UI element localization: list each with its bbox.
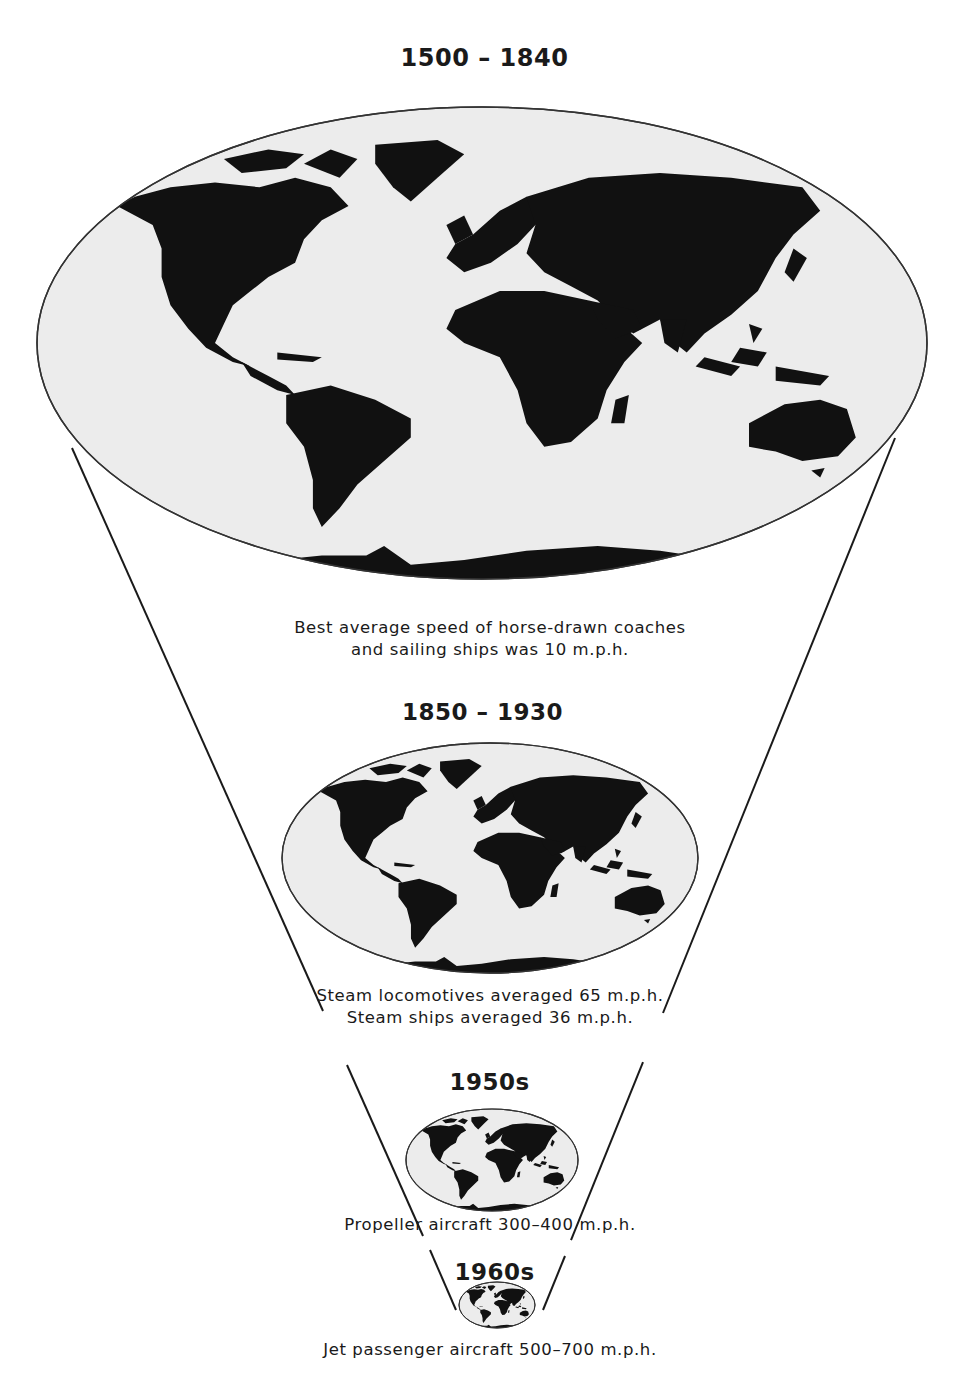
world-map-1500-1840 [37,107,927,584]
diagram-canvas [0,0,969,1386]
era-title-1500-1840: 1500 – 1840 [0,44,969,72]
era-caption-1960s: Jet passenger aircraft 500–700 m.p.h. [280,1339,700,1361]
era-caption-1500-1840: Best average speed of horse-drawn coache… [230,617,750,661]
world-map-1950s [406,1109,578,1212]
caption-line: and sailing ships was 10 m.p.h. [230,639,750,661]
caption-line: Best average speed of horse-drawn coache… [230,617,750,639]
era-title-1850-1930: 1850 – 1930 [0,699,967,725]
era-title-1960s: 1960s [10,1259,969,1285]
caption-line: Jet passenger aircraft 500–700 m.p.h. [280,1339,700,1361]
world-map-1850-1930 [282,743,698,975]
caption-line: Steam locomotives averaged 65 m.p.h. [260,985,720,1007]
era-caption-1850-1930: Steam locomotives averaged 65 m.p.h. Ste… [260,985,720,1029]
era-caption-1950s: Propeller aircraft 300–400 m.p.h. [300,1214,680,1236]
caption-line: Propeller aircraft 300–400 m.p.h. [300,1214,680,1236]
era-title-1950s: 1950s [5,1069,969,1095]
world-map-1960s [459,1282,535,1328]
caption-line: Steam ships averaged 36 m.p.h. [260,1007,720,1029]
